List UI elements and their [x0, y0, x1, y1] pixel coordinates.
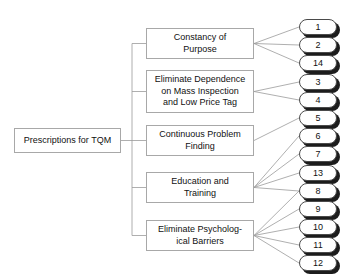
category-node-label: Eliminate Dependence on Mass Inspection … [147, 74, 253, 109]
category-node-eliminate-dependence-on-mass-inspection[interactable]: Eliminate Dependence on Mass Inspection … [146, 70, 254, 113]
connector-cat-3-point-8 [254, 188, 299, 192]
connector-cat-4-point-11 [254, 236, 299, 246]
category-node-label: Continuous Problem Finding [147, 129, 253, 152]
root-node[interactable]: Prescriptions for TQM [14, 128, 121, 153]
pill-label: 4 [315, 95, 320, 105]
point-pill[interactable]: 6 [299, 128, 342, 148]
pill-label: 12 [313, 258, 323, 268]
pill-label: 5 [315, 113, 320, 123]
point-pill[interactable]: 9 [299, 201, 342, 221]
pill-label: 1 [315, 22, 320, 32]
pill-label: 2 [315, 40, 320, 50]
point-pill[interactable]: 4 [299, 92, 342, 112]
point-pill[interactable]: 5 [299, 110, 342, 130]
pill-label: 11 [313, 240, 322, 250]
connector-cat-3-point-7 [254, 154, 299, 188]
connector-cat-3-point-6 [254, 136, 299, 188]
category-node-label: Constancy of Purpose [147, 32, 253, 55]
point-pill[interactable]: 14 [299, 55, 342, 75]
point-pill[interactable]: 10 [299, 219, 342, 239]
point-pill[interactable]: 11 [299, 237, 342, 257]
point-pill[interactable]: 7 [299, 146, 342, 166]
category-node-label: Education and Training [147, 176, 253, 199]
pill-body[interactable]: 10 [299, 219, 337, 235]
pill-label: 8 [315, 186, 320, 196]
connector-cat-2-point-5 [254, 118, 299, 141]
pill-label: 14 [313, 58, 323, 68]
category-node-eliminate-psychological-barriers[interactable]: Eliminate Psycholog- ical Barriers [146, 220, 254, 251]
point-pill[interactable]: 13 [299, 165, 342, 185]
pill-body[interactable]: 8 [299, 183, 337, 199]
pill-body[interactable]: 9 [299, 201, 337, 217]
connector-cat-1-point-3 [254, 82, 299, 92]
pill-body[interactable]: 3 [299, 74, 337, 90]
pill-body[interactable]: 2 [299, 37, 337, 53]
connector-cat-1-point-4 [254, 92, 299, 101]
point-pill[interactable]: 8 [299, 183, 342, 203]
pill-label: 7 [315, 149, 320, 159]
point-pill[interactable]: 12 [299, 255, 342, 275]
pill-body[interactable]: 1 [299, 19, 337, 35]
connector-cat-0-point-2 [254, 44, 299, 46]
pill-label: 10 [313, 222, 323, 232]
pill-label: 13 [313, 168, 323, 178]
pill-body[interactable]: 4 [299, 92, 337, 108]
point-pill[interactable]: 1 [299, 19, 342, 39]
category-node-constancy-of-purpose[interactable]: Constancy of Purpose [146, 28, 254, 59]
pill-label: 9 [315, 204, 320, 214]
tqm-tree-diagram: Prescriptions for TQM Constancy of Purpo… [0, 0, 342, 280]
pill-body[interactable]: 11 [299, 237, 337, 253]
connector-cat-0-point-14 [254, 44, 299, 64]
category-node-label: Eliminate Psycholog- ical Barriers [147, 224, 253, 247]
root-node-label: Prescriptions for TQM [15, 135, 120, 147]
pill-body[interactable]: 6 [299, 128, 337, 144]
pill-body[interactable]: 14 [299, 55, 337, 71]
connector-cat-0-point-1 [254, 27, 299, 44]
point-pill[interactable]: 2 [299, 37, 342, 57]
category-node-continuous-problem-finding[interactable]: Continuous Problem Finding [146, 125, 254, 156]
pill-label: 3 [315, 77, 320, 87]
pill-label: 6 [315, 131, 320, 141]
pill-body[interactable]: 12 [299, 255, 337, 271]
category-node-education-and-training[interactable]: Education and Training [146, 172, 254, 203]
pill-body[interactable]: 5 [299, 110, 337, 126]
connector-cat-4-point-12 [254, 236, 299, 264]
pill-body[interactable]: 13 [299, 165, 337, 181]
point-pill[interactable]: 3 [299, 74, 342, 94]
pill-body[interactable]: 7 [299, 146, 337, 162]
